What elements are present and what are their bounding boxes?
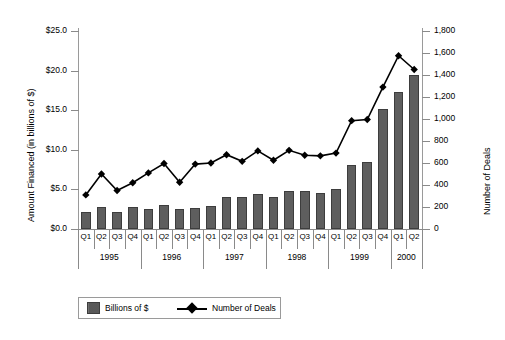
- right-axis-tick: [422, 141, 430, 142]
- quarter-label: Q2: [156, 232, 172, 242]
- year-separator: [266, 230, 267, 269]
- quarter-label: Q2: [94, 232, 110, 242]
- line-marker: [379, 83, 386, 90]
- line-marker: [317, 152, 324, 159]
- quarter-separator: [109, 230, 110, 249]
- quarter-separator: [125, 230, 126, 249]
- quarter-label: Q1: [266, 232, 282, 242]
- right-axis-tick: [422, 97, 430, 98]
- bar-swatch-icon: [87, 302, 100, 314]
- right-axis-tick: [422, 163, 430, 164]
- right-axis-tick: [422, 229, 430, 230]
- right-axis-tick: [422, 75, 430, 76]
- quarter-separator: [406, 230, 407, 249]
- quarter-label: Q1: [391, 232, 407, 242]
- line-marker: [301, 152, 308, 159]
- quarter-label: Q1: [141, 232, 157, 242]
- quarter-separator: [297, 230, 298, 249]
- quarter-separator: [313, 230, 314, 249]
- legend-label-bars: Billions of $: [105, 303, 148, 313]
- legend-item-line[interactable]: Number of Deals: [177, 298, 276, 318]
- right-axis-tick-label: 1,200: [434, 92, 455, 101]
- legend-item-bars[interactable]: Billions of $: [87, 298, 148, 318]
- right-axis-tick-label: 600: [434, 158, 448, 167]
- year-label: 1998: [266, 252, 329, 263]
- quarter-separator: [172, 230, 173, 249]
- y-axis-title-right: Number of Deals: [482, 147, 492, 215]
- year-separator: [422, 230, 423, 269]
- right-axis-tick: [422, 119, 430, 120]
- quarter-separator: [219, 230, 220, 249]
- quarter-separator: [187, 230, 188, 249]
- legend-label-line: Number of Deals: [212, 303, 276, 313]
- year-label: 1999: [328, 252, 391, 263]
- quarter-label: Q4: [313, 232, 329, 242]
- year-label: 2000: [391, 252, 422, 263]
- year-label: 1996: [141, 252, 204, 263]
- right-axis-tick: [422, 207, 430, 208]
- left-axis-tick-label: $5.0: [50, 184, 67, 193]
- right-axis-tick-label: 0: [434, 224, 439, 233]
- line-marker: [364, 116, 371, 123]
- quarter-label: Q3: [109, 232, 125, 242]
- quarter-label: Q2: [406, 232, 422, 242]
- quarter-separator: [344, 230, 345, 249]
- year-separator: [78, 230, 79, 269]
- quarter-label: Q3: [172, 232, 188, 242]
- year-label: 1995: [78, 252, 141, 263]
- quarter-separator: [156, 230, 157, 249]
- quarter-label: Q4: [125, 232, 141, 242]
- year-separator: [391, 230, 392, 269]
- right-axis-tick-label: 1,600: [434, 48, 455, 57]
- quarter-separator: [281, 230, 282, 249]
- year-separator: [203, 230, 204, 269]
- quarter-label: Q2: [344, 232, 360, 242]
- quarter-label: Q2: [219, 232, 235, 242]
- quarter-separator: [375, 230, 376, 249]
- left-axis-tick-label: $0.0: [50, 224, 67, 233]
- quarter-label: Q2: [281, 232, 297, 242]
- quarter-label: Q4: [375, 232, 391, 242]
- quarter-label: Q4: [187, 232, 203, 242]
- right-axis-tick: [422, 31, 430, 32]
- line-series: [78, 31, 422, 229]
- line-marker: [348, 117, 355, 124]
- right-axis-tick: [422, 185, 430, 186]
- quarter-label: Q4: [250, 232, 266, 242]
- quarter-separator: [359, 230, 360, 249]
- right-axis-tick-label: 200: [434, 202, 448, 211]
- right-axis-tick-label: 800: [434, 136, 448, 145]
- left-axis-tick-label: $25.0: [46, 26, 67, 35]
- right-axis-tick-label: 1,000: [434, 114, 455, 123]
- legend: Billions of $ Number of Deals: [78, 297, 281, 319]
- line-marker: [207, 159, 214, 166]
- quarter-label: Q3: [359, 232, 375, 242]
- left-axis-tick-label: $15.0: [46, 105, 67, 114]
- right-axis-tick-label: 400: [434, 180, 448, 189]
- right-axis-line: [422, 28, 423, 234]
- quarter-label: Q3: [297, 232, 313, 242]
- left-axis-tick-label: $20.0: [46, 66, 67, 75]
- right-axis-tick: [422, 53, 430, 54]
- right-axis-tick-label: 1,800: [434, 26, 455, 35]
- quarter-separator: [94, 230, 95, 249]
- line-diamond-icon: [177, 303, 207, 313]
- quarter-label: Q1: [328, 232, 344, 242]
- year-separator: [328, 230, 329, 269]
- year-separator: [141, 230, 142, 269]
- year-label: 1997: [203, 252, 266, 263]
- quarter-separator: [234, 230, 235, 249]
- plot-area: [78, 31, 422, 229]
- line-marker: [223, 151, 230, 158]
- line-marker: [332, 149, 339, 156]
- quarter-label: Q1: [78, 232, 94, 242]
- quarter-label: Q1: [203, 232, 219, 242]
- left-axis-tick-label: $10.0: [46, 145, 67, 154]
- chart-figure: Amount Financed (in billions of $) Numbe…: [0, 0, 505, 340]
- line-path: [86, 56, 414, 195]
- quarter-label: Q3: [234, 232, 250, 242]
- y-axis-title-left: Amount Financed (in billions of $): [26, 88, 36, 222]
- right-axis-tick-label: 1,400: [434, 70, 455, 79]
- quarter-separator: [250, 230, 251, 249]
